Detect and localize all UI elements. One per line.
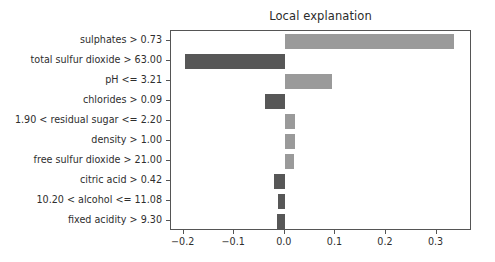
bar — [278, 194, 285, 209]
bar-row — [171, 71, 470, 91]
x-tick-mark — [385, 230, 386, 234]
x-tick-label: 0.3 — [428, 236, 443, 247]
x-tick-mark — [233, 230, 234, 234]
bar — [285, 34, 454, 49]
x-tick-label: 0.2 — [377, 236, 392, 247]
y-tick-label: 1.90 < residual sugar <= 2.20 — [0, 115, 166, 125]
x-tick-mark — [334, 230, 335, 234]
y-tick-label: total sulfur dioxide > 63.00 — [0, 55, 166, 65]
plot-area — [170, 30, 471, 230]
x-tick-label: −0.2 — [171, 236, 194, 247]
bar — [285, 114, 296, 129]
x-tick-mark — [284, 230, 285, 234]
x-tick-label: −0.1 — [222, 236, 245, 247]
x-tick-label: 0.0 — [276, 236, 291, 247]
bar-row — [171, 111, 470, 131]
bar-row — [171, 131, 470, 151]
y-axis-tick-labels: sulphates > 0.73total sulfur dioxide > 6… — [0, 30, 166, 230]
bar-row — [171, 91, 470, 111]
y-tick-label: chlorides > 0.09 — [0, 95, 166, 105]
chart-title: Local explanation — [170, 9, 471, 23]
x-tick-label: 0.1 — [327, 236, 342, 247]
y-tick-label: citric acid > 0.42 — [0, 175, 166, 185]
bar-row — [171, 31, 470, 51]
bar — [285, 134, 295, 149]
bar-row — [171, 51, 470, 71]
bar — [285, 74, 332, 89]
x-tick-mark — [436, 230, 437, 234]
bar-row — [171, 191, 470, 211]
bar — [185, 54, 285, 69]
y-tick-label: fixed acidity > 9.30 — [0, 215, 166, 225]
local-explanation-chart: Local explanation sulphates > 0.73total … — [0, 0, 495, 262]
y-tick-label: sulphates > 0.73 — [0, 35, 166, 45]
bar — [265, 94, 285, 109]
bar-row — [171, 151, 470, 171]
y-tick-label: free sulfur dioxide > 21.00 — [0, 155, 166, 165]
x-axis-ticks: −0.2−0.10.00.10.20.3 — [170, 230, 471, 260]
bar — [274, 174, 285, 189]
x-tick-mark — [183, 230, 184, 234]
y-tick-label: pH <= 3.21 — [0, 75, 166, 85]
bar — [277, 214, 285, 229]
bar — [285, 154, 294, 169]
y-tick-label: density > 1.00 — [0, 135, 166, 145]
y-tick-label: 10.20 < alcohol <= 11.08 — [0, 195, 166, 205]
bar-row — [171, 211, 470, 230]
bar-row — [171, 171, 470, 191]
